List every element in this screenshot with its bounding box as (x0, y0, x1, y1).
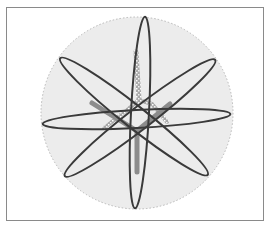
rose-diagram (0, 0, 273, 229)
